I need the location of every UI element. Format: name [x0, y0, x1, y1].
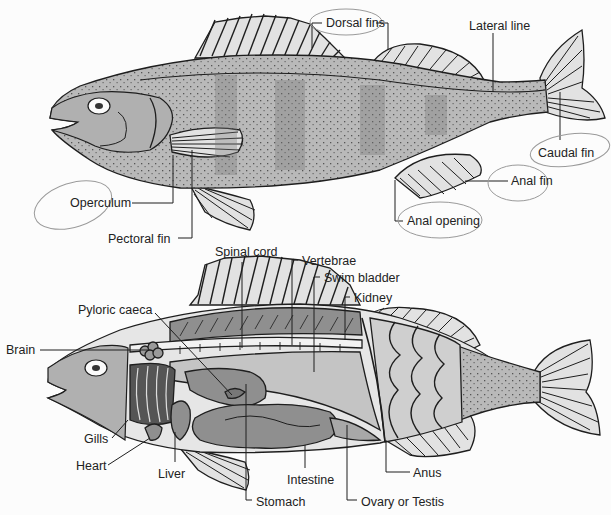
label-vertebrae: Vertebrae: [302, 254, 356, 268]
gills-organ: [130, 363, 175, 424]
internal-fish: [48, 256, 600, 490]
label-liver: Liver: [158, 467, 185, 481]
label-dorsal-fins: Dorsal fins: [326, 16, 385, 30]
label-gills: Gills: [84, 432, 108, 446]
label-anal-fin: Anal fin: [511, 174, 553, 188]
label-anus: Anus: [413, 466, 442, 480]
label-intestine: Intestine: [287, 473, 334, 487]
label-kidney: Kidney: [354, 291, 392, 305]
anal-fin: [395, 154, 481, 198]
label-stomach: Stomach: [256, 495, 305, 509]
label-operculum: Operculum: [70, 196, 131, 210]
label-ovary-or-testis: Ovary or Testis: [361, 495, 444, 509]
label-caudal-fin: Caudal fin: [538, 146, 594, 160]
label-heart: Heart: [76, 459, 107, 473]
pelvic-fin: [190, 185, 254, 230]
label-lateral-line: Lateral line: [469, 19, 530, 33]
external-fish: [50, 14, 605, 230]
label-anal-opening: Anal opening: [407, 214, 480, 228]
first-dorsal-fin: [195, 14, 345, 58]
label-pectoral-fin: Pectoral fin: [108, 232, 171, 246]
label-brain: Brain: [6, 343, 35, 357]
label-pyloric-caeca: Pyloric caeca: [78, 303, 152, 317]
label-swim-bladder: Swim bladder: [324, 271, 400, 285]
label-spinal-cord: Spinal cord: [215, 245, 278, 259]
